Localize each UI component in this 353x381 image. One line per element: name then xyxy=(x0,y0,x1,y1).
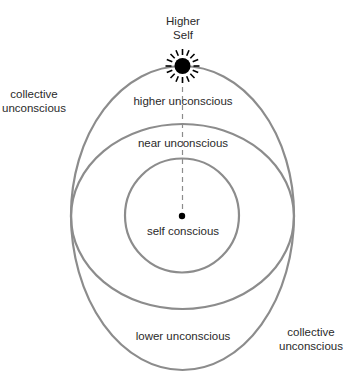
lower-unconscious-label: lower unconscious xyxy=(131,329,235,343)
dot-icon xyxy=(179,213,185,219)
collective-right-line-1: collective xyxy=(272,325,350,339)
collective-left-line-1: collective xyxy=(0,87,68,101)
near-unconscious-label: near unconscious xyxy=(133,136,233,150)
higher-self-label-line-2: Self xyxy=(157,28,209,42)
psychosynthesis-egg-diagram xyxy=(0,0,353,381)
self-conscious-label: self conscious xyxy=(140,224,226,238)
higher-unconscious-label: higher unconscious xyxy=(128,94,238,108)
sun-icon xyxy=(166,49,200,83)
collective-unconscious-right-label: collective unconscious xyxy=(272,325,350,353)
collective-left-line-2: unconscious xyxy=(0,101,68,115)
higher-self-label-line-1: Higher xyxy=(157,14,209,28)
higher-self-label: Higher Self xyxy=(157,14,209,42)
collective-right-line-2: unconscious xyxy=(272,339,350,353)
collective-unconscious-left-label: collective unconscious xyxy=(0,87,68,115)
